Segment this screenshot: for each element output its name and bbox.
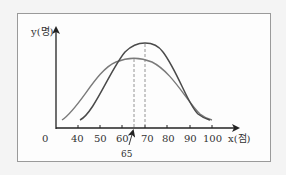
x-tick-label-50: 50 xyxy=(94,133,107,144)
distribution-diagram: y(명) x(점) 0 40 50 60 70 80 90 100 65 xyxy=(0,0,286,175)
annotation-65-label: 65 xyxy=(121,149,133,159)
origin-label: 0 xyxy=(42,133,48,144)
y-axis-label: y(명) xyxy=(30,26,54,37)
x-tick-label-90: 90 xyxy=(184,133,197,144)
x-tick-label-80: 80 xyxy=(162,133,175,144)
x-axis-label: x(점) xyxy=(228,133,251,144)
x-tick-label-60: 60 xyxy=(116,133,129,144)
x-tick-label-40: 40 xyxy=(71,133,84,144)
x-tick-label-70: 70 xyxy=(141,133,154,144)
annotation-65-arrow xyxy=(129,131,133,145)
curve-wide-mean-65 xyxy=(62,58,212,120)
x-tick-label-100: 100 xyxy=(203,133,222,144)
